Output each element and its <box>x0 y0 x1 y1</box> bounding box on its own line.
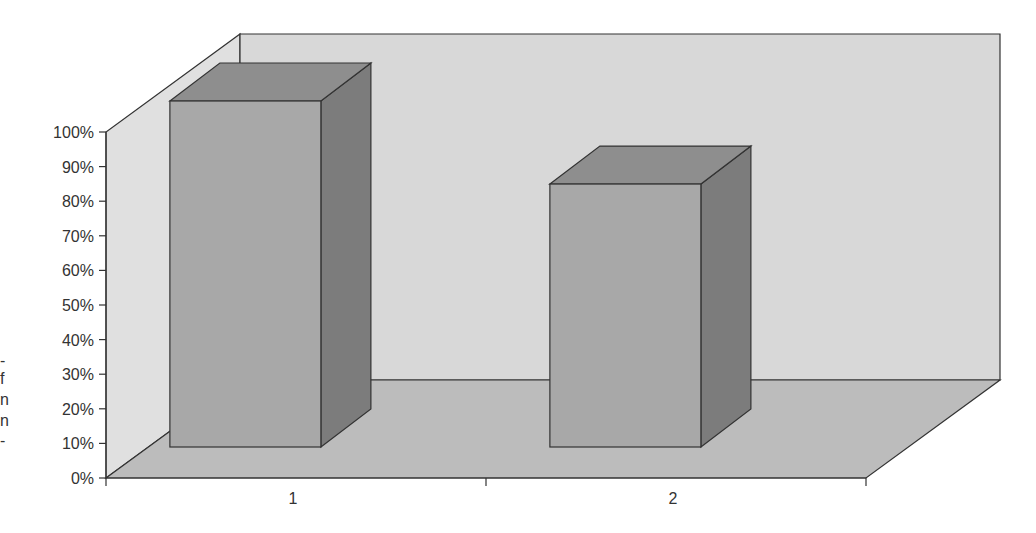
y-tick-label: 80% <box>62 193 94 210</box>
y-axis: 0%10%20%30%40%50%60%70%80%90%100% <box>53 124 106 487</box>
y-tick-label: 30% <box>62 366 94 383</box>
y-tick-label: 100% <box>53 124 94 141</box>
bar-2 <box>550 146 751 447</box>
y-tick-label: 20% <box>62 401 94 418</box>
x-axis: 12 <box>106 478 866 507</box>
y-tick-label: 50% <box>62 297 94 314</box>
y-tick-label: 40% <box>62 332 94 349</box>
y-tick-label: 60% <box>62 262 94 279</box>
y-tick-label: 0% <box>71 470 94 487</box>
y-tick-label: 10% <box>62 435 94 452</box>
3d-column-chart: 0%10%20%30%40%50%60%70%80%90%100% 12 <box>0 0 1036 533</box>
x-tick-label: 1 <box>289 490 298 507</box>
y-tick-label: 70% <box>62 228 94 245</box>
y-tick-label: 90% <box>62 159 94 176</box>
x-tick-label: 2 <box>669 490 678 507</box>
bar-1 <box>170 63 371 447</box>
